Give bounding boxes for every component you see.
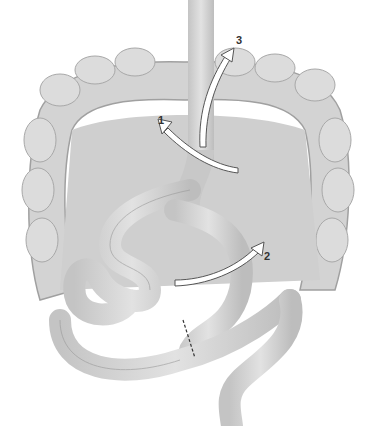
label-2: 2 [264,250,270,262]
label-3: 3 [236,34,242,46]
anatomy-figure: 1 2 3 [0,0,369,426]
intestine-illustration [0,0,369,426]
label-1: 1 [158,114,164,126]
